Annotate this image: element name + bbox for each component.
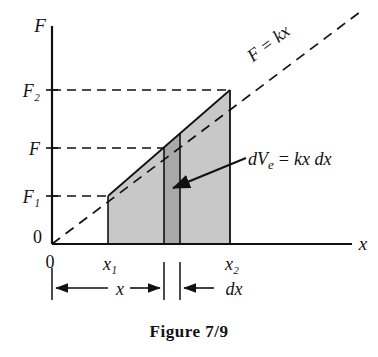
figure-container: F x F₂ F F₁ 0 0 x₁ x₂ x dx F = kx dVe=kx… [0, 0, 378, 357]
y-tick-label-F2: F₂ [22, 81, 40, 101]
dimension-label-x: x [115, 279, 124, 299]
force-line-label: F = kx [242, 21, 293, 67]
y-axis-label: F [33, 15, 46, 36]
figure-caption: Figure 7/9 [0, 322, 378, 342]
spring-work-diagram: F x F₂ F F₁ 0 0 x₁ x₂ x dx F = kx dVe=kx… [0, 0, 378, 357]
annotation-label: dVe=kx dx [248, 149, 331, 172]
x-tick-label-x2: x₂ [224, 254, 239, 274]
annotation-rhs: kx dx [294, 149, 331, 169]
dark-strip-dx [164, 134, 180, 244]
y-tick-label-F: F [28, 139, 41, 159]
x-axis-label: x [358, 233, 368, 254]
dimension-label-dx: dx [226, 279, 243, 299]
origin-label-y: 0 [33, 227, 42, 247]
y-tick-label-F1: F₁ [22, 187, 40, 207]
light-shaded-region-left [108, 148, 164, 244]
annotation-equals: = [279, 149, 289, 169]
x-tick-label-x1: x₁ [102, 254, 117, 274]
annotation-subscript: e [268, 157, 274, 172]
origin-label-x: 0 [46, 252, 55, 272]
